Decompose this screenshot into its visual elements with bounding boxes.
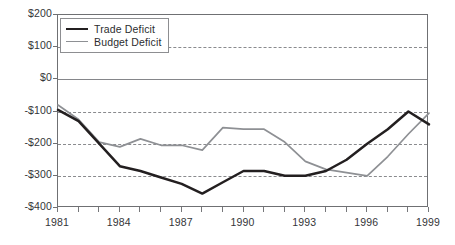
y-tick-label: -$400 <box>2 200 52 212</box>
x-tick-mark <box>407 207 408 212</box>
deficit-line-chart: $200$100$0-$100-$200-$300-$400 198119841… <box>0 0 455 245</box>
x-tick-label: 1996 <box>346 216 386 228</box>
chart-legend: Trade Deficit Budget Deficit <box>60 18 169 53</box>
legend-label-budget-deficit: Budget Deficit <box>94 36 161 48</box>
trade-deficit-line <box>58 110 429 194</box>
x-tick-label: 1987 <box>161 216 201 228</box>
x-tick-mark <box>181 207 182 212</box>
x-tick-mark <box>243 207 244 212</box>
y-tick-label: -$200 <box>2 136 52 148</box>
x-tick-label: 1984 <box>99 216 139 228</box>
x-tick-mark <box>119 207 120 212</box>
x-tick-mark <box>387 207 388 212</box>
x-tick-mark <box>263 207 264 212</box>
legend-swatch-budget-deficit <box>66 41 88 42</box>
x-tick-mark <box>284 207 285 212</box>
x-tick-mark <box>346 207 347 212</box>
x-tick-mark <box>57 207 58 212</box>
x-tick-mark <box>304 207 305 212</box>
y-tick-label: $0 <box>2 71 52 83</box>
legend-swatch-trade-deficit <box>66 28 88 30</box>
x-tick-mark <box>222 207 223 212</box>
x-tick-mark <box>201 207 202 212</box>
x-tick-mark <box>160 207 161 212</box>
x-tick-mark <box>98 207 99 212</box>
x-tick-mark <box>78 207 79 212</box>
legend-label-trade-deficit: Trade Deficit <box>94 23 155 35</box>
x-tick-label: 1990 <box>223 216 263 228</box>
x-tick-mark <box>325 207 326 212</box>
y-tick-label: -$100 <box>2 104 52 116</box>
x-tick-mark <box>139 207 140 212</box>
y-tick-label: -$300 <box>2 168 52 180</box>
x-tick-label: 1993 <box>284 216 324 228</box>
x-tick-label: 1999 <box>408 216 448 228</box>
x-tick-mark <box>428 207 429 212</box>
x-tick-mark <box>366 207 367 212</box>
y-tick-label: $100 <box>2 39 52 51</box>
legend-item-budget-deficit: Budget Deficit <box>66 35 161 48</box>
x-tick-label: 1981 <box>37 216 77 228</box>
legend-item-trade-deficit: Trade Deficit <box>66 22 161 35</box>
y-tick-label: $200 <box>2 7 52 19</box>
